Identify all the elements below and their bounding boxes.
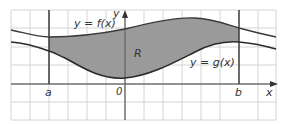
- label-x-axis: x: [265, 86, 273, 99]
- label-a: a: [45, 86, 52, 99]
- label-b: b: [235, 86, 242, 99]
- y-axis-arrow-icon: [122, 10, 128, 18]
- label-region-r: R: [134, 47, 142, 60]
- label-y-axis: y: [112, 7, 120, 20]
- label-g: y = g(x): [189, 56, 235, 69]
- label-f: y = f(x): [73, 17, 116, 30]
- label-origin: 0: [116, 86, 122, 97]
- area-between-curves-diagram: y = f(x) y = g(x) R y x 0 a b: [0, 0, 284, 124]
